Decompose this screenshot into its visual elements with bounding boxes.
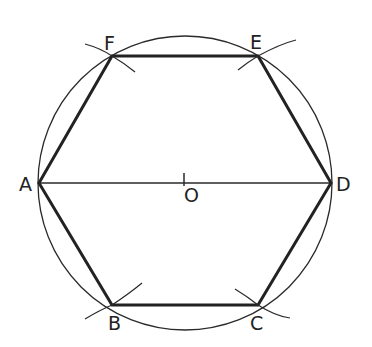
center-label-O: O bbox=[184, 184, 199, 206]
hexagon-ABCDEF bbox=[39, 56, 331, 305]
vertex-label-D: D bbox=[336, 173, 351, 195]
vertex-label-A: A bbox=[19, 173, 32, 195]
hexagon-construction-diagram: F E A D B C O bbox=[0, 0, 372, 347]
vertex-label-C: C bbox=[250, 312, 263, 334]
vertex-label-B: B bbox=[108, 312, 121, 334]
vertex-label-E: E bbox=[250, 31, 262, 53]
vertex-label-F: F bbox=[104, 32, 115, 54]
